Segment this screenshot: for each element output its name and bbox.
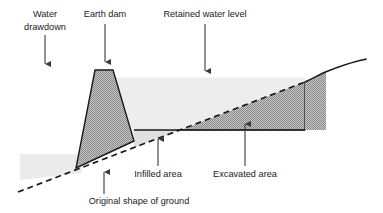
drawdown-water-fill — [20, 154, 82, 180]
label-excavated-area: Excavated area — [213, 169, 278, 179]
label-infilled-area: Infilled area — [134, 169, 182, 179]
label-original-shape-of-ground: Original shape of ground — [89, 196, 190, 206]
dam-cross-section-diagram: Water drawdown Earth dam Retained water … — [0, 0, 383, 213]
label-water-drawdown-line1: Water — [33, 9, 57, 19]
diagram-canvas: Water drawdown Earth dam Retained water … — [0, 0, 383, 213]
label-earth-dam: Earth dam — [84, 9, 127, 19]
label-water-drawdown-line2: drawdown — [24, 22, 66, 32]
label-retained-water-level: Retained water level — [163, 9, 246, 19]
